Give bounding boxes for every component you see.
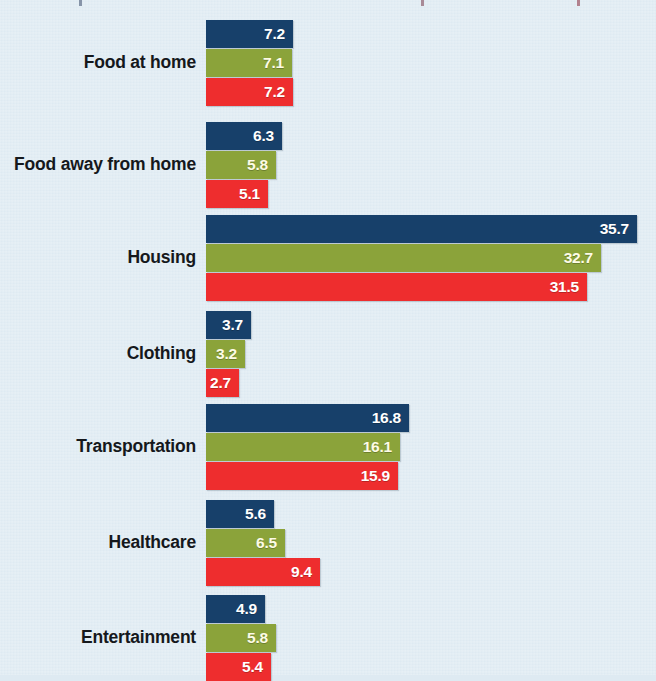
- bar-value-label: 7.2: [264, 26, 285, 42]
- bar-value-label: 5.1: [239, 186, 260, 202]
- bar-stack: 4.95.85.4: [206, 595, 276, 681]
- bar: 6.3: [206, 122, 282, 150]
- bar: 6.5: [206, 529, 285, 557]
- category-label: Housing: [0, 247, 196, 268]
- bar-value-label: 5.8: [247, 157, 268, 173]
- bar: 3.2: [206, 340, 245, 368]
- bar-value-label: 5.6: [245, 506, 266, 522]
- bar-value-label: 32.7: [564, 250, 593, 266]
- bar-value-label: 7.2: [264, 84, 285, 100]
- bar-stack: 35.732.731.5: [206, 215, 637, 301]
- bar: 16.8: [206, 404, 409, 432]
- bar: 3.7: [206, 311, 251, 339]
- category-label: Food at home: [0, 52, 196, 73]
- scan-artifact-right: [577, 0, 580, 6]
- bar-stack: 16.816.115.9: [206, 404, 409, 490]
- bar-value-label: 3.7: [222, 317, 243, 333]
- bar-value-label: 7.1: [263, 55, 284, 71]
- bar: 5.1: [206, 180, 268, 208]
- scan-artifact-mid: [421, 0, 424, 6]
- bar-value-label: 3.2: [216, 346, 237, 362]
- bar-value-label: 31.5: [550, 279, 579, 295]
- bar: 16.1: [206, 433, 400, 461]
- category-label: Transportation: [0, 436, 196, 457]
- bar: 5.4: [206, 653, 271, 681]
- bar-value-label: 2.7: [210, 375, 231, 391]
- bar: 31.5: [206, 273, 587, 301]
- bar: 2.7: [206, 369, 239, 397]
- bar-stack: 3.73.22.7: [206, 311, 251, 397]
- category-label: Healthcare: [0, 532, 196, 553]
- bar-stack: 5.66.59.4: [206, 500, 320, 586]
- bar-stack: 6.35.85.1: [206, 122, 282, 208]
- bar: 7.2: [206, 78, 293, 106]
- bar: 5.8: [206, 151, 276, 179]
- bar-value-label: 16.1: [363, 439, 392, 455]
- bar-value-label: 16.8: [372, 410, 401, 426]
- bar-value-label: 9.4: [291, 564, 312, 580]
- bar-value-label: 15.9: [361, 468, 390, 484]
- bar-value-label: 5.8: [247, 630, 268, 646]
- bar: 32.7: [206, 244, 601, 272]
- category-label: Entertainment: [0, 627, 196, 648]
- bar: 9.4: [206, 558, 320, 586]
- bar-value-label: 5.4: [242, 659, 263, 675]
- bar-value-label: 35.7: [600, 221, 629, 237]
- bar: 4.9: [206, 595, 265, 623]
- bar: 35.7: [206, 215, 637, 243]
- bar-value-label: 4.9: [236, 601, 257, 617]
- scan-artifact-left: [79, 0, 82, 6]
- bar: 7.1: [206, 49, 292, 77]
- bar-stack: 7.27.17.2: [206, 20, 293, 106]
- category-label: Clothing: [0, 343, 196, 364]
- bar: 5.6: [206, 500, 274, 528]
- bar: 5.8: [206, 624, 276, 652]
- bar-value-label: 6.5: [256, 535, 277, 551]
- category-label: Food away from home: [0, 154, 196, 175]
- bar: 7.2: [206, 20, 293, 48]
- bar: 15.9: [206, 462, 398, 490]
- bar-value-label: 6.3: [253, 128, 274, 144]
